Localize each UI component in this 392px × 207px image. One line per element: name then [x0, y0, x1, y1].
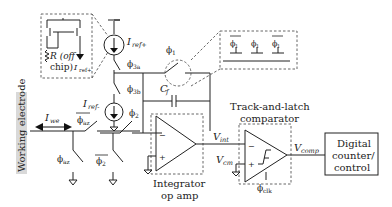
svg-text:clk: clk [263, 187, 272, 194]
svg-text:we: we [50, 117, 60, 125]
svg-text:op amp: op amp [161, 190, 198, 201]
svg-text:R (off: R (off [49, 51, 77, 61]
svg-text:1: 1 [172, 49, 176, 56]
switch-phi-3b [114, 83, 120, 94]
switch-phi-az [73, 150, 83, 162]
svg-text:az: az [63, 158, 70, 165]
svg-text:+: + [248, 160, 255, 169]
svg-text:+: + [159, 153, 166, 162]
svg-text:chip): chip) [50, 62, 73, 72]
svg-text:ref+: ref+ [132, 41, 147, 49]
svg-text:f: f [165, 88, 170, 96]
ground-icon [144, 170, 152, 174]
current-source-iref-minus [105, 103, 123, 121]
integrator-opamp [156, 116, 196, 171]
svg-text:control: control [334, 162, 370, 173]
resistor-icon [45, 50, 49, 62]
svg-text:Digital: Digital [337, 138, 371, 149]
svg-text:3b: 3b [133, 88, 141, 95]
circuit-diagram: Working electrode I we ϕ az I ref- ϕ az … [0, 0, 392, 207]
svg-text:Working electrode: Working electrode [16, 78, 27, 172]
current-source-iref-plus [104, 35, 124, 55]
svg-text:Integrator: Integrator [153, 178, 206, 189]
iwe-arrow: I we [35, 112, 72, 131]
svg-text:counter/: counter/ [332, 150, 375, 161]
svg-text:−: − [248, 142, 255, 151]
ground-icon [110, 127, 118, 131]
svg-text:1: 1 [235, 43, 238, 49]
svg-text:az: az [83, 119, 90, 126]
svg-text:1: 1 [256, 43, 259, 49]
svg-text:2: 2 [135, 112, 139, 119]
hysteresis-icon [258, 150, 271, 164]
svg-text:comp: comp [301, 147, 320, 155]
switch-phi-1 [165, 63, 178, 73]
svg-text:Track-and-latch: Track-and-latch [230, 101, 310, 112]
working-electrode-label: Working electrode [16, 78, 27, 174]
phi1-switch-inset [220, 31, 297, 69]
svg-text:2: 2 [102, 160, 106, 167]
svg-text:comparator: comparator [240, 113, 299, 124]
svg-text:I: I [73, 63, 78, 72]
svg-text:3a: 3a [133, 63, 141, 70]
svg-text:int: int [220, 136, 229, 144]
svg-text:cm: cm [223, 159, 233, 167]
switch-phi-3a [114, 60, 120, 70]
ground-icon [109, 180, 117, 185]
svg-text:ref-: ref- [88, 103, 99, 111]
switch-phi-2-bar [113, 150, 123, 162]
svg-text:−: − [159, 131, 166, 140]
svg-text:1: 1 [277, 43, 280, 49]
svg-text:ref+: ref+ [79, 67, 92, 73]
ground-icon [69, 180, 77, 185]
